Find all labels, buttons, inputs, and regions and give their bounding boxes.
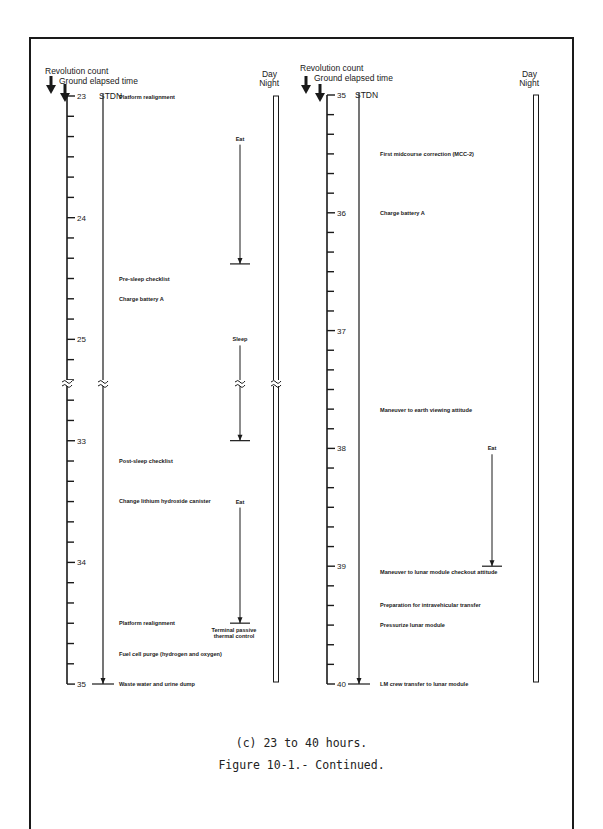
ground-elapsed-time-arrow-icon — [60, 93, 70, 102]
day-night-bar — [274, 96, 279, 682]
stdn-arrow-icon — [357, 678, 362, 684]
activity-label-eat: Eat — [488, 445, 497, 451]
ground-elapsed-time-arrow-icon — [315, 93, 325, 102]
hour-label-37: 37 — [337, 327, 346, 336]
hour-label-23: 23 — [77, 92, 86, 101]
hour-label-38: 38 — [337, 444, 346, 453]
figure-subcaption: (c) 23 to 40 hours. — [0, 736, 603, 750]
event-label: LM crew transfer to lunar module — [380, 681, 468, 687]
hour-label-40: 40 — [337, 680, 346, 689]
activity-label-eat: Eat — [236, 136, 245, 142]
event-label: Preparation for intravehicular transfer — [380, 602, 482, 608]
hour-label-36: 36 — [337, 209, 346, 218]
activity-label-eat: Eat — [236, 499, 245, 505]
activity-end-arrow-icon — [238, 435, 243, 441]
event-label: Pressurize lunar module — [380, 622, 445, 628]
hour-label-34: 34 — [77, 558, 86, 567]
activity-note: thermal control — [214, 633, 255, 639]
revolution-count-arrow-icon — [46, 85, 56, 94]
activity-end-arrow-icon — [238, 258, 243, 264]
activity-end-arrow-icon — [238, 617, 243, 623]
event-label: First midcourse correction (MCC-2) — [380, 151, 474, 157]
event-label: Pre-sleep checklist — [119, 276, 170, 282]
revolution-count-header: Revolution count — [300, 63, 364, 73]
event-label: Platform realignment — [119, 620, 175, 626]
night-label: Night — [259, 78, 279, 88]
hour-label-33: 33 — [77, 437, 86, 446]
event-label: Waste water and urine dump — [119, 681, 196, 687]
hour-label-35: 35 — [337, 91, 346, 100]
event-label: Maneuver to lunar module checkout attitu… — [380, 569, 498, 575]
event-label: Post-sleep checklist — [119, 458, 173, 464]
hour-label-39: 39 — [337, 562, 346, 571]
event-label: Maneuver to earth viewing attitude — [380, 407, 472, 413]
activity-end-arrow-icon — [490, 560, 495, 566]
hour-label-24: 24 — [77, 214, 86, 223]
event-label: Charge battery A — [380, 210, 425, 216]
event-label: Charge battery A — [119, 296, 164, 302]
event-label: Change lithium hydroxide canister — [119, 498, 212, 504]
stdn-arrow-icon — [101, 678, 106, 684]
event-label: Fuel cell purge (hydrogen and oxygen) — [119, 651, 222, 657]
event-label: Platform realignment — [119, 94, 175, 100]
revolution-count-header: Revolution count — [45, 66, 109, 76]
activity-label-sleep: Sleep — [233, 336, 249, 342]
figure-caption: Figure 10-1.- Continued. — [0, 758, 603, 772]
revolution-count-arrow-icon — [301, 85, 311, 94]
day-night-bar — [534, 95, 539, 682]
night-label: Night — [519, 78, 539, 88]
ground-elapsed-time-header: Ground elapsed time — [59, 76, 138, 86]
ground-elapsed-time-header: Ground elapsed time — [314, 73, 393, 83]
hour-label-25: 25 — [77, 335, 86, 344]
hour-label-35: 35 — [77, 680, 86, 689]
